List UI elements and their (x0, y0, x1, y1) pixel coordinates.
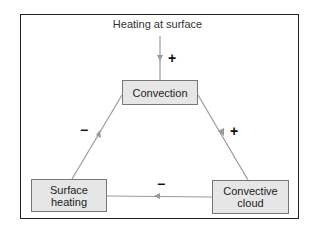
node-surface-heating: Surface heating (31, 179, 107, 212)
input-label: Heating at surface (0, 18, 315, 30)
node-convective-cloud: Convective cloud (212, 180, 289, 214)
sign-surface-convection: − (80, 122, 88, 138)
node-convection: Convection (122, 80, 198, 105)
arrowhead-cloud-surface (154, 193, 160, 199)
sign-input-convection: + (168, 50, 176, 66)
sign-cloud-surface: − (157, 176, 165, 192)
arrowhead-input (157, 55, 163, 61)
sign-convection-cloud: + (230, 123, 238, 139)
